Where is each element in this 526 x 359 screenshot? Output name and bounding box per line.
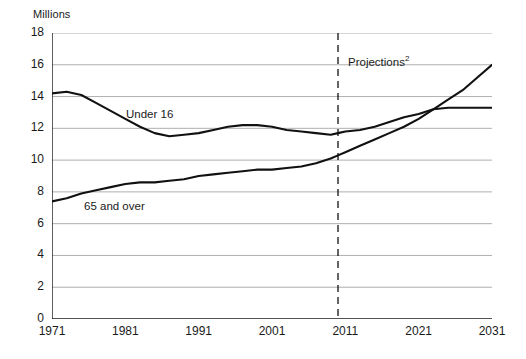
y-axis-tick-label: 10 xyxy=(14,152,44,166)
y-axis-tick-label: 16 xyxy=(14,57,44,71)
y-axis-tick-label: 4 xyxy=(14,247,44,261)
series-label-65-and-over: 65 and over xyxy=(84,200,145,212)
y-axis-tick-label: 6 xyxy=(14,216,44,230)
x-axis-tick-label: 2031 xyxy=(470,324,514,338)
y-axis-tick-label: 14 xyxy=(14,89,44,103)
x-axis-tick-label: 2021 xyxy=(397,324,441,338)
y-axis-tick-label: 18 xyxy=(14,25,44,39)
y-axis-tick-label: 12 xyxy=(14,120,44,134)
x-axis-tick-label: 1981 xyxy=(103,324,147,338)
annotation-projections: Projections2 xyxy=(348,54,409,68)
plot-area xyxy=(52,33,492,319)
y-axis-tick-label: 2 xyxy=(14,279,44,293)
chart-figure: Millions Under 16 65 and over Projection… xyxy=(0,0,526,359)
x-axis-tick-label: 2011 xyxy=(323,324,367,338)
footnote-marker: 2 xyxy=(405,54,409,63)
x-axis-tick-label: 1991 xyxy=(177,324,221,338)
x-axis-tick-label: 1971 xyxy=(30,324,74,338)
chart-svg xyxy=(52,33,492,319)
y-axis-tick-label: 8 xyxy=(14,184,44,198)
x-axis-tick-label: 2001 xyxy=(250,324,294,338)
y-axis-title: Millions xyxy=(33,8,70,20)
y-axis-tick-label: 0 xyxy=(14,311,44,325)
series-label-under16: Under 16 xyxy=(126,108,173,120)
